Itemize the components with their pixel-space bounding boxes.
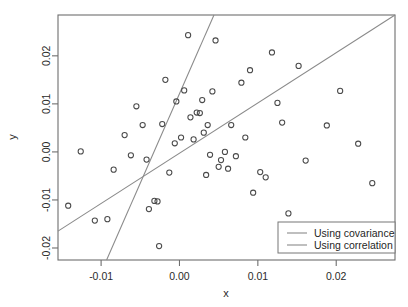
data-point: [178, 135, 183, 140]
data-point: [134, 104, 139, 109]
legend: Using covariance Using correlation: [278, 222, 395, 253]
data-point: [258, 169, 263, 174]
data-point: [216, 164, 221, 169]
x-axis-tick-labels: -0.010.000.010.02: [89, 270, 346, 282]
data-point: [128, 153, 133, 158]
data-point: [205, 122, 210, 127]
data-point: [280, 120, 285, 125]
data-point: [286, 211, 291, 216]
y-axis-ticks: [52, 56, 58, 248]
data-point: [225, 166, 230, 171]
data-point: [146, 206, 151, 211]
data-point: [167, 170, 172, 175]
data-point: [144, 157, 149, 162]
data-point: [370, 181, 375, 186]
data-point: [182, 88, 187, 93]
y-tick-label: -0.01: [40, 188, 52, 212]
data-point: [160, 121, 165, 126]
y-tick-label: 0.01: [40, 93, 52, 114]
x-axis-title: x: [223, 287, 229, 299]
data-point: [66, 203, 71, 208]
data-point: [303, 158, 308, 163]
data-point: [251, 190, 256, 195]
legend-label-correlation: Using correlation: [314, 239, 393, 251]
x-tick-label: 0.02: [326, 270, 347, 282]
data-point: [157, 243, 162, 248]
data-point: [210, 89, 215, 94]
data-point: [188, 115, 193, 120]
data-point: [247, 68, 252, 73]
data-point: [191, 137, 196, 142]
data-point: [155, 199, 160, 204]
data-point-group: [66, 33, 375, 249]
data-point: [111, 167, 116, 172]
data-point: [207, 152, 212, 157]
data-point: [204, 172, 209, 177]
data-point: [197, 110, 202, 115]
y-tick-label: 0.00: [40, 142, 52, 163]
data-point: [324, 123, 329, 128]
data-point: [213, 38, 218, 43]
y-axis-tick-labels: 0.020.010.00-0.01-0.02: [40, 45, 52, 260]
data-point: [296, 63, 301, 68]
data-point: [92, 218, 97, 223]
data-point: [122, 132, 127, 137]
y-axis-title: y: [6, 134, 18, 140]
legend-label-covariance: Using covariance: [314, 227, 395, 239]
data-point: [243, 135, 248, 140]
data-point: [172, 141, 177, 146]
fit-line-using-correlation: [58, 15, 395, 231]
data-point: [338, 88, 343, 93]
data-point: [263, 175, 268, 180]
y-tick-label: 0.02: [40, 45, 52, 66]
data-point: [275, 100, 280, 105]
data-point: [78, 149, 83, 154]
data-point: [356, 141, 361, 146]
scatter-plot-figure: -0.010.000.010.02 0.020.010.00-0.01-0.02…: [0, 0, 408, 307]
data-point: [105, 217, 110, 222]
data-point: [229, 122, 234, 127]
x-axis-ticks: [101, 260, 336, 266]
x-tick-label: -0.01: [89, 270, 113, 282]
data-point: [163, 77, 168, 82]
data-point: [233, 154, 238, 159]
data-point: [269, 50, 274, 55]
data-point: [200, 97, 205, 102]
data-point: [201, 130, 206, 135]
data-point: [140, 122, 145, 127]
x-tick-label: 0.01: [248, 270, 269, 282]
data-point: [239, 80, 244, 85]
x-tick-label: 0.00: [169, 270, 190, 282]
y-tick-label: -0.02: [40, 236, 52, 260]
data-point: [218, 157, 223, 162]
data-point: [185, 33, 190, 38]
plot-canvas: -0.010.000.010.02 0.020.010.00-0.01-0.02…: [0, 0, 408, 307]
data-point: [222, 149, 227, 154]
